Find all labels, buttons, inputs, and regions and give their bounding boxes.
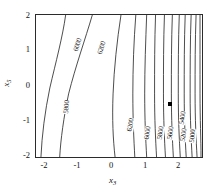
y-tick-label: 2 xyxy=(12,10,30,20)
y-tick-label: -2 xyxy=(12,150,30,160)
x-tick-label: -1 xyxy=(69,160,85,170)
contour-label: 6000 xyxy=(143,126,152,141)
contour-plot-figure: x5 x3 2 1 0 -1 -2 -2 -1 0 1 2 6000620058… xyxy=(0,0,217,189)
x-tick-label: 2 xyxy=(170,160,186,170)
data-point-marker xyxy=(168,102,172,106)
contour-curve-group xyxy=(41,15,201,157)
contour-label: 4800 xyxy=(202,110,203,125)
x-axis-title: x3 xyxy=(109,175,116,185)
y-axis-title: x5 xyxy=(1,79,11,86)
y-axis-title-var: x xyxy=(1,83,11,87)
y-tick-label: -1 xyxy=(12,115,30,125)
contour-line-6200 xyxy=(113,15,121,157)
y-tick-label: 0 xyxy=(12,80,30,90)
contour-line-6000 xyxy=(133,15,136,157)
contour-label: 5800 xyxy=(156,126,165,141)
x-tick-label: -2 xyxy=(36,160,52,170)
x-axis-title-sub: 3 xyxy=(113,179,116,186)
contour-lines-svg xyxy=(36,15,202,157)
y-tick-label: 1 xyxy=(12,44,30,54)
x-tick-label: 1 xyxy=(137,160,153,170)
contour-label: 4600 xyxy=(202,128,203,143)
contour-label: 5800 xyxy=(63,99,71,114)
x-tick-label: 0 xyxy=(103,160,119,170)
y-axis-title-sub: 5 xyxy=(5,79,12,82)
plot-area: 6000620058006200600058005600540052005000… xyxy=(35,14,203,158)
